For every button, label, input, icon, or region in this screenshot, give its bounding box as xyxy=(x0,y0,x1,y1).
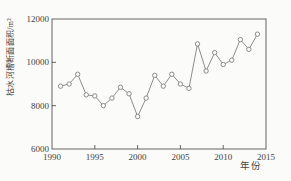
y-tick-label: 12000 xyxy=(27,14,50,24)
y-tick-label: 8000 xyxy=(31,101,50,111)
data-point-marker xyxy=(93,94,97,98)
data-point-marker xyxy=(204,69,208,73)
data-point-marker xyxy=(58,84,62,88)
data-point-marker xyxy=(161,84,165,88)
data-point-marker xyxy=(195,42,199,46)
data-line xyxy=(61,34,258,116)
data-point-marker xyxy=(110,96,114,100)
data-point-marker xyxy=(118,85,122,89)
data-point-marker xyxy=(221,62,225,66)
axes-frame xyxy=(52,19,266,149)
data-point-marker xyxy=(247,47,251,51)
x-tick-label: 2005 xyxy=(171,152,190,162)
x-tick-label: 2010 xyxy=(214,152,233,162)
x-tick-label: 1995 xyxy=(86,152,105,162)
data-point-marker xyxy=(187,86,191,90)
y-tick-label: 6000 xyxy=(31,144,50,154)
y-tick-label: 10000 xyxy=(27,57,50,67)
y-axis-label: 枯水河槽断面面积/m² xyxy=(5,0,17,128)
data-point-marker xyxy=(170,72,174,76)
data-point-marker xyxy=(67,82,71,86)
data-point-marker xyxy=(255,32,259,36)
data-point-marker xyxy=(75,72,79,76)
x-tick-label: 2000 xyxy=(129,152,148,162)
data-point-marker xyxy=(212,50,216,54)
data-point-marker xyxy=(135,114,139,118)
data-point-marker xyxy=(238,37,242,41)
line-chart-figure: 1990199520002005201020156000800010000120… xyxy=(0,0,291,181)
data-point-marker xyxy=(144,96,148,100)
x-axis-label: 年份 xyxy=(239,160,263,173)
chart-plot-area: 1990199520002005201020156000800010000120… xyxy=(0,0,291,181)
data-point-marker xyxy=(101,103,105,107)
data-point-marker xyxy=(127,92,131,96)
data-point-marker xyxy=(84,93,88,97)
data-point-marker xyxy=(178,82,182,86)
data-point-marker xyxy=(230,58,234,62)
data-point-marker xyxy=(153,73,157,77)
